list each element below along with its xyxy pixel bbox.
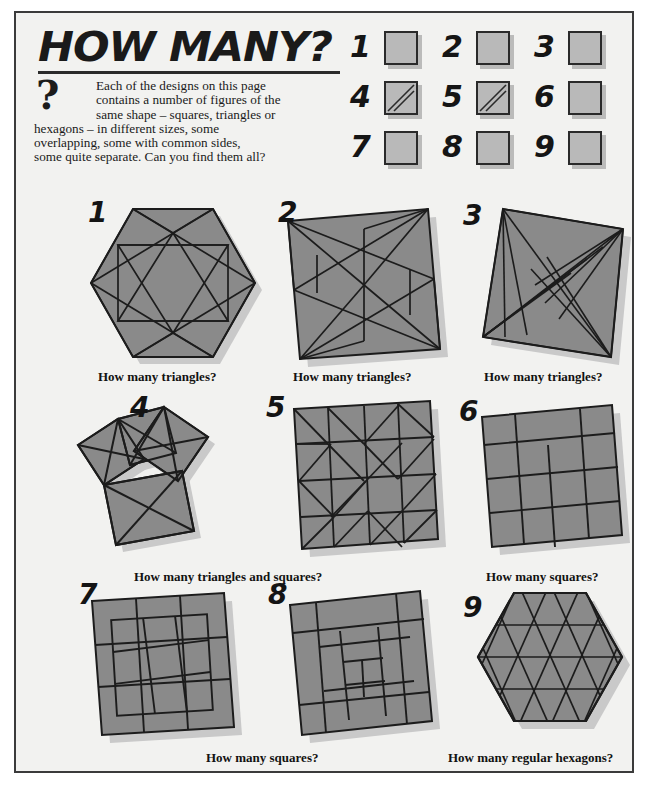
puzzle-number-8: 8 [268,578,287,611]
answer-input-5[interactable] [476,81,510,115]
answer-box-number: 5 [442,79,463,114]
answer-box-1[interactable]: 1 [350,27,440,77]
answer-box-number: 4 [350,79,371,114]
answer-input-2[interactable] [476,31,510,65]
intro-line-3: same shape – squares, triangles or [34,108,334,122]
answer-input-9[interactable] [568,131,602,165]
title-underline [38,71,340,74]
puzzle-figure-4 [56,395,266,565]
puzzle-figure-2 [274,203,454,368]
puzzle-figure-9 [456,579,646,754]
caption-puzzle-2: How many triangles? [293,369,411,385]
intro-line-6: some quite separate. Can you find them a… [34,150,334,164]
answer-box-8[interactable]: 8 [442,127,532,177]
answer-box-number: 2 [442,29,463,64]
puzzle-figure-5 [268,395,448,563]
answer-box-6[interactable]: 6 [534,77,624,127]
intro-line-1: Each of the designs on this page [34,79,334,93]
puzzle-figure-3 [471,203,648,368]
answer-input-6[interactable] [568,81,602,115]
puzzle-number-2: 2 [278,196,297,229]
page-title: HOW MANY? [38,23,332,71]
answer-input-1[interactable] [384,31,418,65]
puzzle-number-1: 1 [88,196,107,229]
answer-box-5[interactable]: 5 [442,77,532,127]
puzzle-number-3: 3 [463,199,482,232]
caption-puzzle-1: How many triangles? [98,369,216,385]
puzzle-number-4: 4 [130,391,149,424]
answer-box-2[interactable]: 2 [442,27,532,77]
answer-box-number: 9 [534,129,555,164]
puzzle-figure-1 [82,203,267,368]
answer-input-8[interactable] [476,131,510,165]
caption-puzzle-7-8: How many squares? [206,750,318,766]
puzzle-number-6: 6 [459,395,478,428]
answer-box-4[interactable]: 4 [350,77,440,127]
puzzle-number-5: 5 [266,391,285,424]
puzzle-figure-7 [78,585,258,750]
puzzle-page: HOW MANY? ? Each of the designs on this … [14,11,634,773]
answer-input-3[interactable] [568,31,602,65]
caption-puzzle-4-5: How many triangles and squares? [134,569,322,585]
puzzle-number-9: 9 [463,591,482,624]
answer-box-number: 8 [442,129,463,164]
answer-box-number: 1 [350,29,371,64]
caption-puzzle-3: How many triangles? [484,369,602,385]
answer-box-9[interactable]: 9 [534,127,624,177]
answer-box-3[interactable]: 3 [534,27,624,77]
puzzle-figure-8 [274,585,454,750]
answer-input-4[interactable] [384,81,418,115]
intro-text: Each of the designs on this page contain… [34,79,334,165]
answer-input-7[interactable] [384,131,418,165]
answer-box-number: 6 [534,79,555,114]
answer-box-number: 3 [534,29,555,64]
caption-puzzle-9: How many regular hexagons? [448,750,613,766]
puzzle-figure-6 [466,397,641,557]
answer-box-grid: 1 2 3 4 5 6 7 [350,27,622,177]
intro-line-2: contains a number of figures of the [34,93,334,107]
answer-box-7[interactable]: 7 [350,127,440,177]
intro-line-5: overlapping, some with common sides, [34,136,334,150]
intro-line-4: hexagons – in different sizes, some [34,122,334,136]
puzzle-number-7: 7 [78,578,97,611]
answer-box-number: 7 [350,129,371,164]
